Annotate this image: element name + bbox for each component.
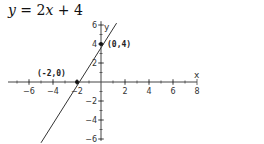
intercept-point bbox=[75, 80, 79, 84]
x-tick-label: 8 bbox=[194, 87, 199, 96]
function-line bbox=[41, 23, 117, 143]
y-tick-label: −4 bbox=[85, 116, 97, 125]
y-tick-label: −6 bbox=[85, 135, 97, 144]
coordinate-plot: −6−4−22468−6−4−2246xy(-2,0)(0,4) bbox=[0, 0, 264, 144]
x-tick-label: −4 bbox=[47, 87, 59, 96]
x-axis-label: x bbox=[194, 70, 200, 80]
x-tick-label: −6 bbox=[23, 87, 35, 96]
intercept-point bbox=[99, 42, 103, 46]
x-tick-label: 6 bbox=[170, 87, 175, 96]
x-tick-label: 2 bbox=[122, 87, 127, 96]
y-tick-label: 6 bbox=[92, 21, 97, 30]
y-axis-label: y bbox=[104, 22, 110, 32]
point-label: (0,4) bbox=[107, 40, 131, 49]
y-tick-label: −2 bbox=[85, 97, 97, 106]
x-tick-label: 4 bbox=[146, 87, 151, 96]
point-label: (-2,0) bbox=[37, 69, 66, 78]
y-tick-label: 4 bbox=[92, 40, 97, 49]
